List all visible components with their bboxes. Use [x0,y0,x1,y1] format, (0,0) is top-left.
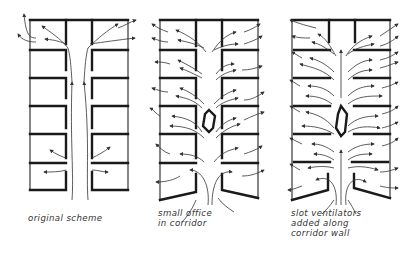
caption-slot-ventilators: slot ventilatorsadded alongcorridor wall [291,208,362,238]
plan-small-office-in-corridor [150,20,264,222]
caption-original-scheme: original scheme [28,213,102,223]
caption-line: slot ventilators [291,208,362,218]
caption-small-office: small officein corridor [158,208,212,228]
small-office-shape [336,106,347,136]
caption-line: small office [158,208,212,218]
caption-line: added along [291,218,362,228]
plan-original-scheme [18,14,136,200]
plan-slot-ventilators [288,20,398,214]
small-office-shape [203,110,215,132]
caption-line: corridor wall [291,228,362,238]
caption-line: in corridor [158,218,212,228]
caption-line: original scheme [28,213,102,223]
